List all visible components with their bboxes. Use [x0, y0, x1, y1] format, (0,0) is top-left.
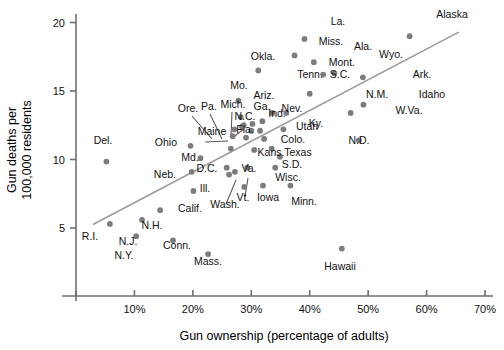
y-tick-label-15: 15 [53, 85, 65, 97]
point-label-nm: N.M. [366, 88, 388, 100]
x-tick-label-60%: 60% [416, 303, 438, 315]
point-label-ariz: Ariz. [254, 89, 275, 101]
point-label-del: Del. [94, 134, 113, 146]
data-point-nm [307, 91, 313, 97]
point-label-pa: Pa. [201, 100, 217, 112]
point-label-minn: Minn. [291, 195, 317, 207]
data-point-ala [311, 59, 317, 65]
point-label-okla: Okla. [251, 50, 276, 62]
point-label-alaska: Alaska [436, 8, 468, 20]
point-label-dc: D.C. [197, 162, 218, 174]
data-point-ky [281, 126, 287, 132]
gun-ownership-scatter-chart: 10%20%30%40%50%60%70%5101520 Del.R.I.N.J… [0, 0, 504, 350]
point-label-ohio: Ohio [155, 136, 177, 148]
point-label-mont: Mont. [329, 56, 355, 68]
data-point-vt [241, 184, 247, 190]
data-point-miss [292, 52, 298, 58]
point-label-idaho: Idaho [419, 88, 445, 100]
data-point-la [302, 36, 308, 42]
data-point-okla [255, 68, 261, 74]
point-label-ny: N.Y. [114, 249, 133, 261]
point-label-calif: Calif. [178, 202, 202, 214]
point-label-nev: Nev. [282, 102, 303, 114]
y-tick-label-10: 10 [53, 154, 65, 166]
data-point-iowa [260, 183, 266, 189]
plot-area: 10%20%30%40%50%60%70%5101520 Del.R.I.N.J… [0, 0, 504, 350]
data-point-wash [232, 169, 238, 175]
point-label-wva: W.Va. [395, 104, 422, 116]
data-point-nh [157, 207, 163, 213]
point-label-hawaii: Hawaii [324, 260, 356, 272]
data-point-ill [226, 172, 232, 178]
data-point-ark [360, 74, 366, 80]
data-point-alaska [407, 33, 413, 39]
point-label-maine: Maine [198, 125, 227, 137]
y-axis-title-line1: Gun deaths per [5, 107, 19, 193]
data-point-calif [191, 188, 197, 194]
data-point-wisc [272, 165, 278, 171]
x-tick-label-20%: 20% [182, 303, 204, 315]
data-point-neb [189, 169, 195, 175]
point-label-nc: N.C. [235, 110, 256, 122]
data-point-maine [228, 146, 234, 152]
point-label-ala: Ala. [354, 40, 372, 52]
data-point-utah [257, 128, 263, 134]
point-label-ark: Ark. [413, 68, 432, 80]
data-point-wva [348, 110, 354, 116]
data-point-del [103, 159, 109, 165]
point-label-mo: Mo. [230, 79, 248, 91]
y-tick-label-20: 20 [53, 17, 65, 29]
data-point-ore [230, 133, 236, 139]
x-axis-title: Gun ownership (percentage of adults) [179, 329, 388, 343]
data-point-idaho [361, 102, 367, 108]
point-label-wisc: Wisc. [275, 171, 301, 183]
point-label-la: La. [331, 15, 346, 27]
y-axis-title-line2: 100,000 residents [20, 100, 34, 199]
x-tick-label-40%: 40% [299, 303, 321, 315]
y-tick-label-5: 5 [59, 222, 65, 234]
point-label-sc: S.C. [330, 68, 350, 80]
x-tick-label-30%: 30% [240, 303, 262, 315]
point-label-fla: Fla. [236, 123, 254, 135]
data-point-ri [107, 221, 113, 227]
data-point-kans [251, 147, 257, 153]
x-tick-label-70%: 70% [474, 303, 496, 315]
point-label-nj: N.J. [119, 235, 138, 247]
leader-line [231, 112, 232, 136]
point-label-nh: N.H. [142, 219, 163, 231]
point-label-kans: Kans. [258, 146, 285, 158]
point-label-colo: Colo. [281, 133, 306, 145]
point-label-sd: S.D. [282, 158, 302, 170]
data-point-minn [288, 183, 294, 189]
data-point-nev [259, 118, 265, 124]
x-tick-label-50%: 50% [357, 303, 379, 315]
point-label-texas: Texas [284, 146, 311, 158]
leader-line [205, 141, 228, 142]
point-label-mass: Mass. [194, 255, 222, 267]
point-label-ore: Ore. [178, 102, 198, 114]
y-axis-title: Gun deaths per 100,000 residents [5, 100, 34, 199]
data-point-dc [224, 165, 230, 171]
data-point-labels: Del.R.I.N.J.N.Y.N.H.Conn.Mass.Calif.Ohio… [82, 8, 468, 272]
point-label-vt: Vt. [237, 191, 250, 203]
data-point-hawaii [339, 246, 345, 252]
point-label-va: Va. [242, 162, 257, 174]
data-point-fla [243, 135, 249, 141]
point-label-iowa: Iowa [257, 191, 279, 203]
point-label-tenn: Tenn. [297, 68, 323, 80]
point-label-mich: Mich. [220, 98, 245, 110]
data-point-ohio [188, 143, 194, 149]
point-label-ky: Ky. [309, 117, 323, 129]
point-label-nd: N.D. [349, 134, 370, 146]
point-label-ri: R.I. [82, 230, 98, 242]
point-label-wyo: Wyo. [379, 48, 403, 60]
point-label-neb: Neb. [154, 168, 176, 180]
point-label-conn: Conn. [163, 239, 191, 251]
point-label-wash: Wash. [210, 198, 239, 210]
x-tick-label-10%: 10% [123, 303, 145, 315]
point-label-miss: Miss. [319, 35, 344, 47]
data-point-colo [261, 136, 267, 142]
point-label-ill: Ill. [200, 182, 211, 194]
